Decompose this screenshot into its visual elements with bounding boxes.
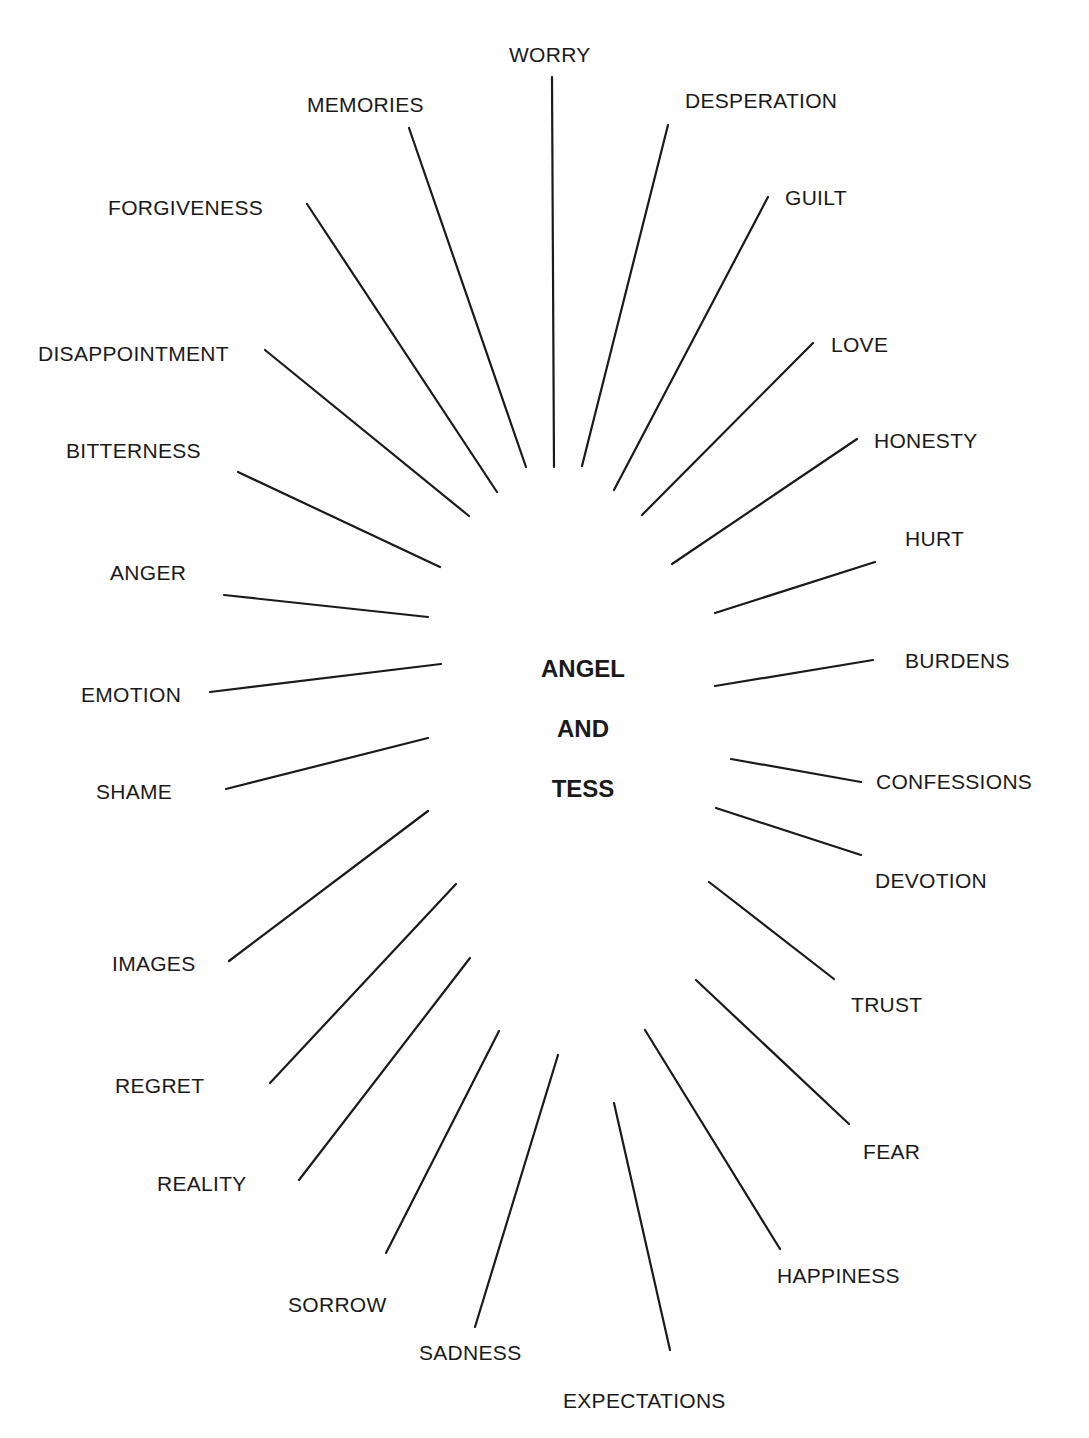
spoke-line-regret bbox=[270, 884, 456, 1083]
spoke-line-anger bbox=[224, 595, 428, 617]
spoke-line-happiness bbox=[645, 1030, 780, 1249]
spoke-label-confessions: CONFESSIONS bbox=[876, 771, 1032, 792]
spoke-label-anger: ANGER bbox=[110, 562, 186, 583]
spoke-label-devotion: DEVOTION bbox=[875, 870, 987, 891]
spoke-label-memories: MEMORIES bbox=[307, 94, 424, 115]
spoke-label-hurt: HURT bbox=[905, 528, 964, 549]
spoke-label-emotion: EMOTION bbox=[81, 684, 181, 705]
spoke-label-fear: FEAR bbox=[863, 1141, 920, 1162]
spoke-line-sadness bbox=[475, 1055, 558, 1327]
spoke-line-desperation bbox=[582, 125, 668, 466]
spoke-label-sorrow: SORROW bbox=[288, 1294, 387, 1315]
spoke-line-confessions bbox=[731, 759, 861, 782]
spoke-line-reality bbox=[299, 958, 470, 1180]
center-word-angel: ANGEL bbox=[541, 657, 625, 681]
spoke-label-guilt: GUILT bbox=[785, 187, 847, 208]
spoke-label-burdens: BURDENS bbox=[905, 650, 1010, 671]
spoke-label-images: IMAGES bbox=[112, 953, 195, 974]
spoke-label-expectations: EXPECTATIONS bbox=[563, 1390, 726, 1411]
spoke-line-love bbox=[642, 343, 813, 515]
spoke-label-bitterness: BITTERNESS bbox=[66, 440, 201, 461]
spoke-label-shame: SHAME bbox=[96, 781, 172, 802]
spoke-label-honesty: HONESTY bbox=[874, 430, 978, 451]
spoke-line-worry bbox=[552, 77, 554, 467]
spoke-label-forgiveness: FORGIVENESS bbox=[108, 197, 263, 218]
center-word-and: AND bbox=[557, 717, 609, 741]
center-word-tess: TESS bbox=[552, 777, 615, 801]
spoke-line-bitterness bbox=[238, 472, 440, 567]
spoke-label-disappointment: DISAPPOINTMENT bbox=[38, 343, 229, 364]
spoke-line-devotion bbox=[716, 808, 861, 855]
spoke-label-worry: WORRY bbox=[509, 44, 591, 65]
spoke-line-forgiveness bbox=[307, 204, 497, 492]
spoke-line-memories bbox=[409, 128, 526, 467]
spoke-line-images bbox=[229, 811, 428, 961]
spoke-line-expectations bbox=[614, 1103, 670, 1350]
spoke-label-reality: REALITY bbox=[157, 1173, 247, 1194]
spoke-label-sadness: SADNESS bbox=[419, 1342, 521, 1363]
spoke-label-regret: REGRET bbox=[115, 1075, 204, 1096]
spoke-line-guilt bbox=[614, 197, 768, 490]
spoke-line-shame bbox=[226, 738, 428, 789]
spoke-line-emotion bbox=[210, 664, 441, 692]
spoke-line-hurt bbox=[715, 562, 875, 613]
spoke-line-burdens bbox=[715, 660, 873, 686]
spoke-label-happiness: HAPPINESS bbox=[777, 1265, 900, 1286]
spoke-line-sorrow bbox=[386, 1031, 499, 1253]
spoke-line-trust bbox=[709, 882, 834, 979]
spoke-label-trust: TRUST bbox=[851, 994, 923, 1015]
spoke-line-disappointment bbox=[265, 350, 469, 516]
spoke-label-desperation: DESPERATION bbox=[685, 90, 837, 111]
spoke-line-fear bbox=[696, 980, 849, 1124]
spoke-label-love: LOVE bbox=[831, 334, 888, 355]
